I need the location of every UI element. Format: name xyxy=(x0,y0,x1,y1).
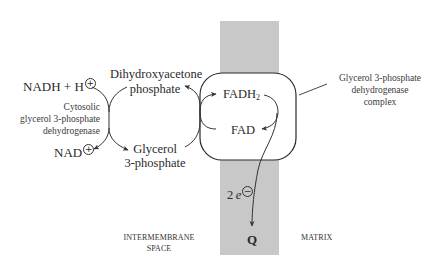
negative-charge-icon: − xyxy=(242,186,253,197)
nadh-text: NADH + H xyxy=(23,79,84,94)
enzyme-line-3: dehydrogenase xyxy=(10,125,100,137)
dhap-line-2: phosphate xyxy=(110,82,200,97)
complex-label: Glycerol 3-phosphate dehydrogenase compl… xyxy=(326,72,434,108)
nadh-label: NADH + H+ xyxy=(23,78,96,93)
nad-label: NAD+ xyxy=(54,144,94,159)
fad-label: FAD xyxy=(231,124,255,137)
ubiquinone-label: Q xyxy=(247,233,257,246)
electron-label: 2 e− xyxy=(227,186,253,202)
complex-label-line-3: complex xyxy=(326,96,434,108)
positive-charge-icon: + xyxy=(83,144,94,155)
dhap-label: Dihydroxyacetone phosphate xyxy=(110,67,200,97)
fadh2-text: FADH xyxy=(223,87,256,101)
fadh2-subscript: 2 xyxy=(256,93,260,102)
complex-label-line-1: Glycerol 3-phosphate xyxy=(326,72,434,84)
matrix-label: MATRIX xyxy=(301,234,332,242)
electron-symbol: e xyxy=(236,188,242,202)
complex-label-line-2: dehydrogenase xyxy=(326,84,434,96)
nad-text: NAD xyxy=(54,145,82,160)
intermembrane-space-label: INTERMEMBRANE SPACE xyxy=(114,232,204,254)
complex-leader-line xyxy=(299,84,327,95)
intermembrane-line-1: INTERMEMBRANE xyxy=(114,232,204,243)
g3p-line-1: Glycerol xyxy=(120,142,190,156)
positive-charge-icon: + xyxy=(85,78,96,89)
g3p-line-2: 3-phosphate xyxy=(120,156,190,170)
glycerol-3-phosphate-label: Glycerol 3-phosphate xyxy=(120,142,190,170)
fadh2-label: FADH2 xyxy=(223,88,260,102)
glycerol-phosphate-shuttle-diagram: NADH + H+ Cytosolic glycerol 3-phosphate… xyxy=(0,0,438,264)
intermembrane-line-2: SPACE xyxy=(114,243,204,254)
dhap-line-1: Dihydroxyacetone xyxy=(110,67,200,82)
cytosolic-enzyme-label: Cytosolic glycerol 3-phosphate dehydroge… xyxy=(10,101,100,137)
enzyme-line-2: glycerol 3-phosphate xyxy=(10,113,100,125)
enzyme-line-1: Cytosolic xyxy=(10,101,100,113)
electron-count: 2 xyxy=(227,188,233,202)
